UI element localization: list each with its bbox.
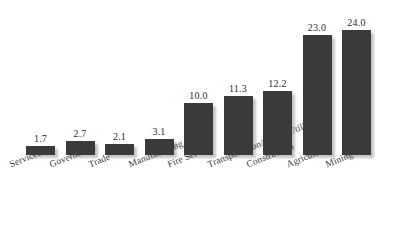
- bar-group: 12.2: [263, 0, 292, 155]
- bar-group: 2.7: [66, 0, 95, 155]
- bar-value-label: 2.7: [66, 128, 95, 139]
- bar-group: 11.3: [224, 0, 253, 155]
- bar-group: 24.0: [342, 0, 371, 155]
- bar-group: 23.0: [303, 0, 332, 155]
- plot-area: 1.7Services2.7Government2.1Trade3.1Manuf…: [0, 0, 399, 246]
- bar-value-label: 24.0: [342, 17, 371, 28]
- bar-value-label: 10.0: [184, 90, 213, 101]
- bar-group: 3.1: [145, 0, 174, 155]
- bar-group: 1.7: [26, 0, 55, 155]
- bar-value-label: 23.0: [303, 22, 332, 33]
- bar[interactable]: [303, 35, 332, 155]
- bar-group: 10.0: [184, 0, 213, 155]
- bar-value-label: 12.2: [263, 78, 292, 89]
- bar-value-label: 1.7: [26, 133, 55, 144]
- bar-value-label: 2.1: [105, 131, 134, 142]
- bar[interactable]: [342, 30, 371, 155]
- bar-chart: 1.7Services2.7Government2.1Trade3.1Manuf…: [0, 0, 399, 246]
- bar-value-label: 3.1: [145, 126, 174, 137]
- bar-group: 2.1: [105, 0, 134, 155]
- bar[interactable]: [105, 144, 134, 155]
- bar-value-label: 11.3: [224, 83, 253, 94]
